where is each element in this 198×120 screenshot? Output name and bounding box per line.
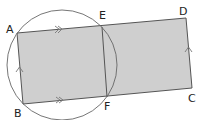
label-b: B [14, 107, 22, 120]
label-c: C [188, 92, 196, 105]
label-f: F [104, 100, 110, 113]
geometry-diagram: A B E F D C [0, 0, 198, 120]
label-a: A [6, 23, 14, 36]
label-d: D [179, 5, 187, 18]
label-e: E [99, 9, 106, 22]
